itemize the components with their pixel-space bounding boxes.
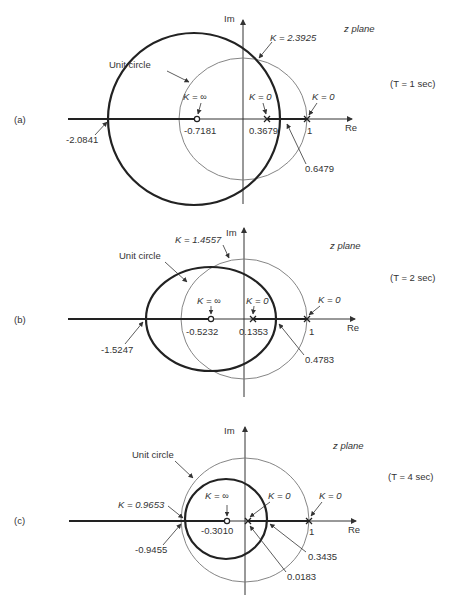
panel-c: (c) Im Re Unit circle K = 0.9653 K = ∞ K… xyxy=(14,425,434,595)
annotation-arrow xyxy=(263,103,266,114)
zero-marker xyxy=(208,316,213,321)
zero-gain-label: K = ∞ xyxy=(197,295,221,306)
pole-value-label: 0.0183 xyxy=(287,571,316,582)
zero-value-label: -0.5232 xyxy=(186,326,218,337)
annotation-arrow xyxy=(287,124,306,164)
crossing-gain-label: K = 0.9653 xyxy=(118,499,165,510)
annotation-arrow xyxy=(175,461,193,478)
annotation-arrow xyxy=(309,306,320,315)
pole-gain-label: K = 0 xyxy=(319,490,342,501)
zero-gain-label: K = ∞ xyxy=(205,490,229,501)
annotation-arrow xyxy=(167,71,189,82)
im-axis-label: Im xyxy=(224,13,235,24)
annotation-arrow xyxy=(163,524,181,545)
breakaway-label: -0.9455 xyxy=(135,544,167,555)
annotation-arrow xyxy=(125,322,143,344)
crossing-gain-label: K = 2.3925 xyxy=(270,32,317,43)
breakaway-label: -1.5247 xyxy=(101,344,133,355)
pole-gain-label: K = 0 xyxy=(318,294,341,305)
zero-value-label: -0.3010 xyxy=(201,525,233,536)
annotation-arrow xyxy=(253,306,254,314)
re-axis-label: Re xyxy=(347,322,359,333)
zero-gain-label: K = ∞ xyxy=(183,91,207,102)
crossing-gain-label: K = 1.4557 xyxy=(175,234,222,245)
zero-marker xyxy=(224,518,229,523)
annotation-arrow xyxy=(309,103,317,115)
pole-gain-label: K = 0 xyxy=(268,490,291,501)
period-label: (T = 2 sec) xyxy=(390,272,436,283)
pole-value-label: 1 xyxy=(307,125,312,136)
unit-circle-label: Unit circle xyxy=(109,59,151,70)
panel-label: (a) xyxy=(14,114,26,125)
im-axis-label: Im xyxy=(224,425,235,436)
breakaway-label: 0.4783 xyxy=(305,354,334,365)
zero-marker xyxy=(194,116,199,121)
panel-label: (b) xyxy=(14,314,26,325)
root-locus-figure: (a) Im Re Unit circle K = 2.3925 K = ∞ K… xyxy=(0,0,449,595)
period-label: (T = 4 sec) xyxy=(388,471,434,482)
plane-label: z plane xyxy=(343,23,375,34)
im-axis-label: Im xyxy=(226,227,237,238)
annotation-arrow xyxy=(198,103,201,114)
re-axis-label: Re xyxy=(348,524,360,535)
panel-a: (a) Im Re Unit circle K = 2.3925 K = ∞ K… xyxy=(14,13,436,205)
panel-label: (c) xyxy=(14,515,25,526)
annotation-arrow xyxy=(270,524,306,552)
annotation-arrow xyxy=(223,245,229,258)
breakaway-label: 0.6479 xyxy=(305,163,334,174)
plane-label: z plane xyxy=(329,240,361,251)
breakaway-label: 0.3435 xyxy=(308,551,337,562)
unit-circle-label: Unit circle xyxy=(119,250,161,261)
pole-gain-label: K = 0 xyxy=(249,91,272,102)
annotation-arrow xyxy=(279,324,304,355)
annotation-arrow xyxy=(168,506,183,518)
annotation-arrow xyxy=(95,122,107,135)
pole-value-label: 0.3679 xyxy=(249,125,278,136)
re-axis-label: Re xyxy=(345,122,357,133)
zero-value-label: -0.7181 xyxy=(184,125,216,136)
breakaway-label: -2.0841 xyxy=(66,134,98,145)
period-label: (T = 1 sec) xyxy=(390,78,436,89)
pole-value-label: 0.1353 xyxy=(239,326,268,337)
pole-gain-label: K = 0 xyxy=(246,295,269,306)
plane-label: z plane xyxy=(332,440,364,451)
annotation-arrow xyxy=(259,42,272,58)
pole-value-label: 1 xyxy=(309,326,314,337)
annotation-arrow xyxy=(311,502,322,516)
pole-value-label: 1 xyxy=(309,526,314,537)
unit-circle-label: Unit circle xyxy=(132,449,174,460)
pole-gain-label: K = 0 xyxy=(312,91,335,102)
panel-b: (b) Im Re Unit circle K = 1.4557 K = ∞ K… xyxy=(14,227,436,397)
annotation-arrow xyxy=(250,526,286,572)
